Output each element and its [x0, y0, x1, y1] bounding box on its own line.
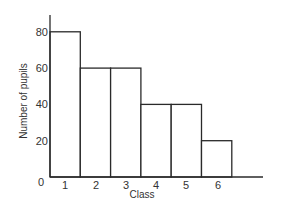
y-tick-80: 80 — [36, 26, 48, 38]
x-axis-label: Class — [129, 189, 154, 200]
histogram-chart: 020406080 123456 Class Number of pupils — [0, 0, 282, 214]
x-tick-5: 5 — [183, 179, 189, 191]
bar-class-1 — [50, 32, 80, 177]
bars-group — [50, 32, 232, 177]
y-tick-40: 40 — [36, 98, 48, 110]
y-tick-20: 20 — [36, 135, 48, 147]
bar-class-5 — [171, 104, 201, 177]
x-tick-3: 3 — [123, 179, 129, 191]
bar-class-2 — [80, 68, 110, 177]
y-tick-60: 60 — [36, 62, 48, 74]
bar-class-6 — [202, 141, 232, 177]
y-tick-labels: 020406080 — [36, 26, 48, 188]
x-tick-1: 1 — [62, 179, 68, 191]
bar-class-4 — [141, 104, 171, 177]
x-tick-6: 6 — [215, 179, 221, 191]
y-tick-0: 0 — [38, 176, 44, 188]
bar-class-3 — [111, 68, 141, 177]
x-tick-2: 2 — [93, 179, 99, 191]
y-axis-label: Number of pupils — [18, 63, 29, 139]
